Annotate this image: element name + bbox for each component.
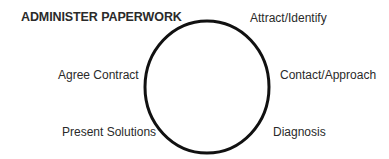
title-administer-paperwork: ADMINISTER PAPERWORK [21, 10, 182, 24]
stage-agree-contract: Agree Contract [58, 68, 139, 82]
cycle-circle [145, 21, 269, 153]
stage-attract-identify: Attract/Identify [250, 11, 327, 25]
stage-diagnosis: Diagnosis [273, 125, 326, 139]
stage-present-solutions: Present Solutions [62, 125, 156, 139]
stage-contact-approach: Contact/Approach [280, 68, 376, 82]
